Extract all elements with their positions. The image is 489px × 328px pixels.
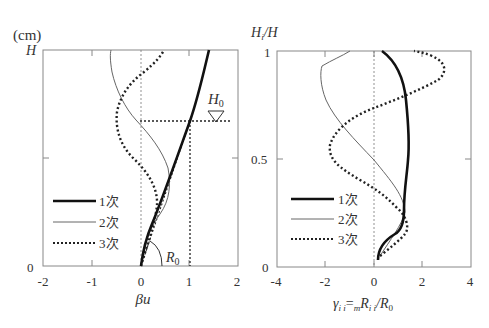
right-ytick-0: 0 xyxy=(262,260,269,275)
right-xtick-2: 2 xyxy=(419,274,426,289)
right-legend: 1次 2次 3次 xyxy=(291,192,358,247)
left-chart: 1次 2次 3次 (cm) H 0 -2 -1 0 1 2 βu H0 R0 xyxy=(13,27,240,307)
left-series-mode3 xyxy=(117,50,164,266)
right-series-mode1 xyxy=(378,51,409,260)
right-legend-mode3: 3次 xyxy=(338,232,358,247)
left-series-mode1 xyxy=(141,50,209,266)
left-unit-label: (cm) xyxy=(13,27,41,44)
left-legend-mode2: 2次 xyxy=(99,215,119,230)
right-x-axis-title: γi i=mRi i/R0 xyxy=(333,296,393,313)
right-y-axis-title: Hi/H xyxy=(250,25,279,42)
left-ticks xyxy=(43,50,238,266)
left-plot-frame xyxy=(43,50,238,266)
figure: 1次 2次 3次 (cm) H 0 -2 -1 0 1 2 βu H0 R0 xyxy=(0,0,489,328)
right-xtick-m2: -2 xyxy=(320,274,331,289)
right-ytick-1: 1 xyxy=(264,45,271,60)
left-legend-mode1: 1次 xyxy=(99,194,119,209)
left-xtick-m2: -2 xyxy=(38,274,49,289)
r0-label: R0 xyxy=(165,250,180,267)
right-xtick-4: 4 xyxy=(467,274,474,289)
left-y-top-label: H xyxy=(25,43,37,58)
left-xtick-m1: -1 xyxy=(87,274,98,289)
left-y-zero-label: 0 xyxy=(27,260,34,275)
right-chart: 1次 2次 3次 Hi/H 1 0.5 0 -4 -2 0 2 4 γi i=m… xyxy=(250,25,474,313)
left-xtick-0: 0 xyxy=(138,274,145,289)
left-xtick-2: 2 xyxy=(234,274,241,289)
left-legend: 1次 2次 3次 xyxy=(53,194,119,251)
left-x-axis-title: βu xyxy=(135,291,151,307)
right-legend-mode2: 2次 xyxy=(338,212,358,227)
left-series-mode2 xyxy=(110,50,169,266)
right-legend-mode1: 1次 xyxy=(338,192,358,207)
left-xtick-1: 1 xyxy=(186,274,193,289)
left-legend-mode3: 3次 xyxy=(99,236,119,251)
right-xtick-m4: -4 xyxy=(271,274,282,289)
right-series-mode2 xyxy=(321,51,405,256)
r0-angle-arc xyxy=(150,241,162,266)
right-xtick-0: 0 xyxy=(371,274,378,289)
right-ytick-05: 0.5 xyxy=(251,152,267,167)
h0-label: H0 xyxy=(207,91,224,109)
